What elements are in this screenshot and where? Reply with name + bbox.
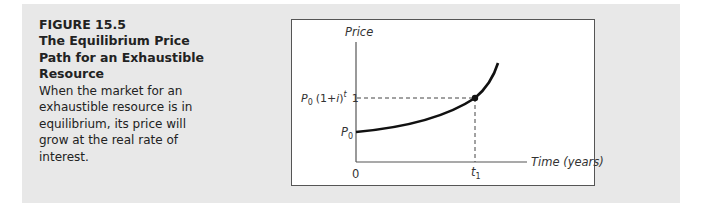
p0-label: P0 [341, 125, 353, 141]
equilibrium-point [472, 95, 478, 101]
pt-label: P0(1+i)t1 [301, 90, 359, 107]
x-axis-label: Time (years) [531, 155, 604, 169]
t1-label: t1 [471, 165, 481, 181]
origin-label: 0 [352, 167, 359, 181]
y-axis-label: Price [345, 25, 373, 39]
price-path-chart: Price Time (years) 0 t1 P0 P0(1+i)t1 [0, 0, 715, 208]
